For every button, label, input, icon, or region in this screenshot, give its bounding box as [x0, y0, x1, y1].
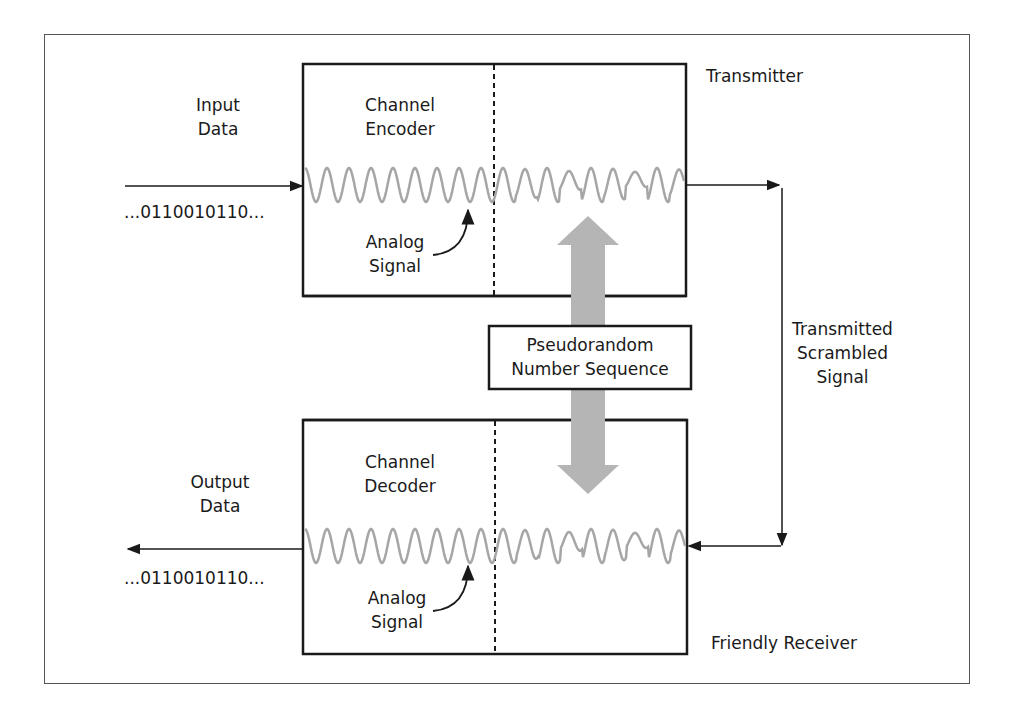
input-data-label: Input Data [188, 93, 248, 141]
pseudorandom-label-line1: Pseudorandom [491, 333, 689, 357]
channel-encoder-label-line2: Encoder [355, 117, 445, 141]
input-bits: ...0110010110... [124, 200, 265, 224]
analog-signal-label-top: Analog Signal [360, 230, 430, 278]
pseudorandom-sequence-label: Pseudorandom Number Sequence [491, 333, 689, 381]
channel-label-line1: Transmitted [785, 317, 900, 341]
channel-decoder-label: Channel Decoder [355, 450, 445, 498]
channel-label-line2: Scrambled [785, 341, 900, 365]
output-data-label: Output Data [180, 470, 260, 518]
analog-signal-label-bottom-line1: Analog [362, 586, 432, 610]
friendly-receiver-title: Friendly Receiver [711, 631, 857, 655]
transmitter-title: Transmitter [706, 64, 803, 88]
analog-signal-pointer-bottom [433, 566, 468, 611]
analog-signal-label-top-line1: Analog [360, 230, 430, 254]
channel-decoder-label-line1: Channel [355, 450, 445, 474]
channel-label-line3: Signal [785, 365, 900, 389]
channel-encoder-label: Channel Encoder [355, 93, 445, 141]
output-bits: ...0110010110... [124, 566, 265, 590]
pn-up-arrow [557, 216, 619, 326]
output-data-label-line1: Output [180, 470, 260, 494]
output-data-label-line2: Data [180, 494, 260, 518]
receiver-waveform [305, 529, 685, 563]
transmitted-scrambled-signal-label: Transmitted Scrambled Signal [785, 317, 900, 389]
analog-signal-pointer-top [433, 210, 468, 255]
analog-signal-label-bottom-line2: Signal [362, 610, 432, 634]
input-data-label-line1: Input [188, 93, 248, 117]
analog-signal-label-top-line2: Signal [360, 254, 430, 278]
input-data-label-line2: Data [188, 117, 248, 141]
channel-encoder-label-line1: Channel [355, 93, 445, 117]
pseudorandom-label-line2: Number Sequence [491, 357, 689, 381]
analog-signal-label-bottom: Analog Signal [362, 586, 432, 634]
pn-down-arrow [557, 389, 619, 494]
channel-decoder-label-line2: Decoder [355, 474, 445, 498]
